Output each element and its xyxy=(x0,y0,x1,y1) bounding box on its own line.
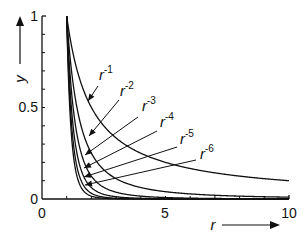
curve-label-r-2: r-2 xyxy=(120,80,134,99)
y-tick-0: 0 xyxy=(30,191,38,207)
curve-label-r-4: r-4 xyxy=(160,111,174,130)
ticks xyxy=(42,34,264,199)
axes xyxy=(42,16,289,199)
curve-label-r-6: r-6 xyxy=(200,143,214,162)
label-arrow-line xyxy=(84,131,157,168)
label-arrow-line xyxy=(85,160,196,185)
arrowhead-icon xyxy=(88,94,94,101)
curve-r-1 xyxy=(67,16,289,181)
y-tick-1: 1 xyxy=(30,8,38,24)
label-arrow-line xyxy=(85,117,138,155)
x-tick-10: 10 xyxy=(281,205,297,221)
curve-label-r-1: r-1 xyxy=(99,64,113,83)
curve-labels: r-1r-2r-3r-4r-5r-6 xyxy=(99,64,214,162)
curve-r-2 xyxy=(67,16,289,197)
curve-label-r-3: r-3 xyxy=(142,95,156,114)
label-arrow-line xyxy=(89,100,119,136)
x-tick-5: 5 xyxy=(161,205,169,221)
power-law-chart: 1 0.5 0 0 5 10 y r r-1r-2r-3r-4r-5r-6 xyxy=(0,0,304,237)
y-axis-label: y xyxy=(11,74,28,84)
x-axis-arrow-icon xyxy=(222,221,280,229)
x-axis-label: r xyxy=(211,216,217,233)
y-tick-0.5: 0.5 xyxy=(19,99,39,115)
curve-label-r-5: r-5 xyxy=(180,128,194,147)
x-tick-0: 0 xyxy=(38,205,46,221)
arrowhead-icon xyxy=(84,172,92,178)
y-axis-arrow-icon xyxy=(16,16,24,64)
